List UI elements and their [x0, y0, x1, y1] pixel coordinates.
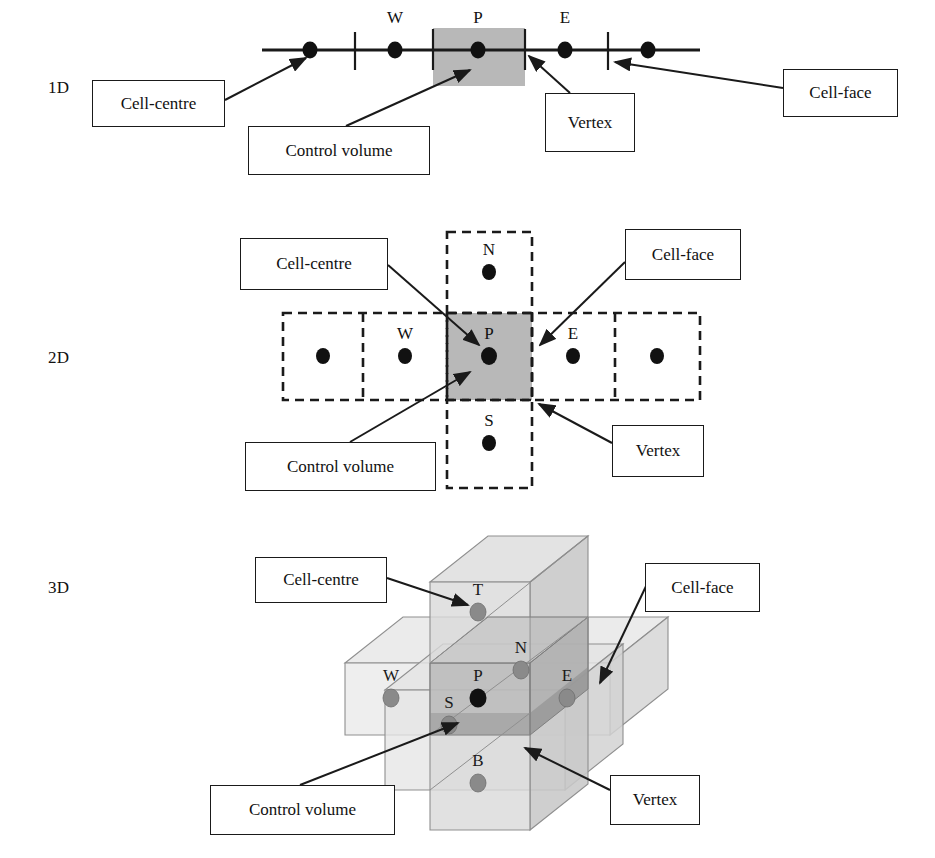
- leader-1d-control-volume: [346, 70, 470, 126]
- callout-2d-vertex[interactable]: Vertex: [612, 425, 704, 477]
- dim-label-2d: 2D: [48, 348, 69, 368]
- node-label-2d-n: N: [483, 240, 495, 260]
- node-dot-2d-w: [398, 348, 412, 364]
- leader-2d-cell-face: [540, 262, 625, 345]
- dim-label-3d: 3D: [48, 578, 69, 598]
- node-dot-2d-ee: [650, 348, 664, 364]
- leader-2d-vertex: [539, 404, 612, 443]
- node-dot-3d-p: [470, 689, 487, 708]
- node-label-3d-n: N: [515, 638, 527, 658]
- node-dot-3d-t: [470, 603, 486, 621]
- node-dot-1d-e: [558, 42, 573, 59]
- node-dot-2d-s: [482, 435, 496, 451]
- node-dot-2d-p: [481, 347, 497, 365]
- node-label-3d-p: P: [473, 666, 482, 686]
- node-label-3d-b: B: [472, 751, 483, 771]
- leader-2d-control-volume: [350, 372, 470, 442]
- callout-3d-cell-face[interactable]: Cell-face: [645, 563, 760, 612]
- node-dot-1d-ee: [641, 42, 656, 59]
- node-label-1d-p: P: [473, 8, 482, 28]
- node-dot-1d-ww: [303, 42, 318, 59]
- callout-2d-control-volume[interactable]: Control volume: [245, 442, 436, 491]
- node-label-2d-w: W: [397, 324, 413, 344]
- leader-1d-cell-face: [615, 62, 783, 88]
- callout-2d-cell-centre[interactable]: Cell-centre: [240, 238, 388, 290]
- leader-1d-vertex: [529, 56, 570, 93]
- node-dot-3d-n: [513, 661, 529, 679]
- figure-canvas: 1D 2D 3D W P E Cell-centre Control volum…: [0, 0, 935, 858]
- node-dot-3d-e: [559, 689, 575, 707]
- diagram-graphics: [0, 0, 935, 858]
- node-dot-3d-w: [383, 689, 399, 707]
- node-dot-2d-e: [566, 348, 580, 364]
- diagram-1d: [225, 28, 783, 126]
- node-label-3d-t: T: [473, 580, 483, 600]
- callout-1d-cell-centre[interactable]: Cell-centre: [92, 80, 225, 127]
- node-dot-2d-n: [482, 264, 496, 280]
- callout-3d-control-volume[interactable]: Control volume: [210, 785, 395, 835]
- callout-3d-vertex[interactable]: Vertex: [610, 775, 700, 825]
- leader-1d-cell-centre: [225, 58, 306, 100]
- node-label-2d-p: P: [484, 324, 493, 344]
- node-label-3d-s: S: [444, 693, 453, 713]
- node-label-3d-e: E: [562, 666, 572, 686]
- callout-3d-cell-centre[interactable]: Cell-centre: [255, 557, 387, 603]
- callout-1d-control-volume[interactable]: Control volume: [248, 126, 430, 175]
- node-dot-1d-w: [388, 42, 403, 59]
- node-label-3d-w: W: [383, 666, 399, 686]
- node-label-1d-w: W: [387, 8, 403, 28]
- callout-2d-cell-face[interactable]: Cell-face: [625, 229, 741, 280]
- callout-1d-cell-face[interactable]: Cell-face: [783, 69, 898, 117]
- node-label-2d-e: E: [568, 324, 578, 344]
- node-dot-1d-p: [471, 42, 486, 59]
- dim-label-1d: 1D: [48, 78, 69, 98]
- node-label-2d-s: S: [484, 411, 493, 431]
- node-dot-2d-ww: [316, 348, 330, 364]
- callout-1d-vertex[interactable]: Vertex: [545, 93, 635, 152]
- node-dot-3d-b: [470, 774, 486, 792]
- node-label-1d-e: E: [560, 8, 570, 28]
